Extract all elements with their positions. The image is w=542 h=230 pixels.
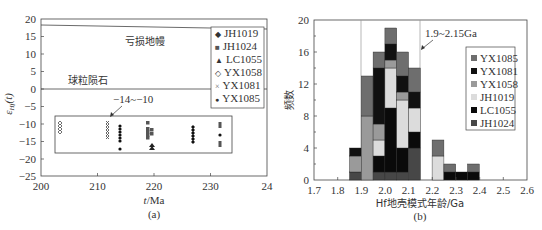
x-tick: 210 xyxy=(89,180,106,192)
legend-swatch xyxy=(471,94,477,100)
depleted-mantle-label: 亏损地幔 xyxy=(125,35,165,47)
range-annotation: −14~−10 xyxy=(113,93,154,105)
range-annotation-b: 1.9~2.15Ga xyxy=(425,27,477,39)
panel-a-x-ticks: 200 210 220 230 24 xyxy=(33,180,273,192)
y-tick: 4 xyxy=(304,142,310,154)
bar-2.05 xyxy=(397,52,409,180)
legend-item-yx1081: YX1081 xyxy=(480,65,518,77)
panel-a-y-ticks: 20 15 10 5 0 −5 −10 −15 −20 −25 xyxy=(19,13,37,182)
y-tick: 15 xyxy=(25,30,37,42)
x-tick: 1.7 xyxy=(307,184,321,196)
y-tick: −10 xyxy=(19,118,37,130)
y-tick: 20 xyxy=(298,14,310,26)
panel-a-chart: 20 15 10 5 0 −5 −10 −15 −20 −25 εHf(t) xyxy=(2,13,273,221)
series-yx1085 xyxy=(118,124,221,150)
series-yx1081 xyxy=(106,121,109,139)
bar-2.30 xyxy=(456,172,468,180)
legend-item-yx1085: YX1085 xyxy=(480,52,518,64)
legend-item-jh1019: JH1019 xyxy=(480,91,515,103)
x-tick: 220 xyxy=(146,180,163,192)
panel-b-y-label: 频数 xyxy=(283,90,295,110)
series-jh1024 xyxy=(146,121,222,147)
x-tick: 2.6 xyxy=(520,184,534,196)
legend-item-lc1055: LC1055 xyxy=(480,104,517,116)
x-tick: 2.4 xyxy=(473,184,487,196)
y-tick: −15 xyxy=(19,135,37,147)
y-tick: −20 xyxy=(19,153,37,165)
bar-2.20 xyxy=(432,140,444,180)
legend-swatch xyxy=(471,81,477,87)
panel-a-x-label: t/Ma xyxy=(144,194,165,206)
bar-1.90 xyxy=(361,76,373,180)
x-tick: 2.1 xyxy=(402,184,416,196)
x-tick: 1.9 xyxy=(354,184,368,196)
annotation-arrow-b xyxy=(423,40,433,48)
scatter-points xyxy=(58,121,222,151)
panel-b-y-ticks: 0 4 8 12 16 20 xyxy=(298,14,310,186)
legend-item-yx1081: ×YX1081 xyxy=(215,79,260,91)
legend-item-yx1058: YX1058 xyxy=(480,78,518,90)
bar-2.10 xyxy=(409,68,421,180)
legend-swatch xyxy=(471,107,477,113)
chondrite-label: 球粒陨石 xyxy=(68,74,108,86)
panel-b-legend: YX1085 YX1081 YX1058 JH1019 LC1055 JH102… xyxy=(466,47,518,130)
x-tick: 24 xyxy=(262,180,274,192)
bar-2.35 xyxy=(468,164,480,180)
arrow-head-icon xyxy=(421,45,425,50)
x-tick: 230 xyxy=(202,180,219,192)
bar-1.95 xyxy=(373,52,385,180)
y-tick: 10 xyxy=(25,48,37,60)
x-tick: 2.2 xyxy=(425,184,439,196)
y-tick: 12 xyxy=(298,78,309,90)
bar-1.85 xyxy=(350,148,362,180)
panel-b-x-ticks: 1.7 1.8 1.9 2.0 2.1 2.2 2.3 2.4 2.5 2.6 xyxy=(307,184,534,196)
panel-a-caption: (a) xyxy=(148,208,161,221)
x-tick: 200 xyxy=(33,180,50,192)
histogram-bars xyxy=(350,28,480,180)
panel-a-legend: ◆JH1019 ■JH1024 ▲LC1055 ◇YX1058 ×YX1081 … xyxy=(211,27,264,108)
legend-item-jh1024: JH1024 xyxy=(480,117,515,129)
series-lc1055 xyxy=(149,143,155,150)
y-tick: 0 xyxy=(31,83,37,95)
y-tick: 8 xyxy=(304,110,310,122)
annotation-arrow xyxy=(112,106,122,115)
y-tick: 20 xyxy=(25,13,37,25)
x-tick: 1.8 xyxy=(331,184,345,196)
panel-b-x-label: Hf地壳模式年龄/Ga xyxy=(376,197,464,209)
svg-text:频数: 频数 xyxy=(283,90,295,110)
legend-item-yx1085: ●YX1085 xyxy=(215,92,261,104)
x-tick: 2.0 xyxy=(378,184,392,196)
panel-b-caption: (b) xyxy=(414,210,427,223)
panel-a-y-tick-marks xyxy=(41,37,211,177)
y-tick: 5 xyxy=(31,65,37,77)
svg-text:εHf(t): εHf(t) xyxy=(2,93,16,115)
bar-2.25 xyxy=(444,164,456,180)
x-tick: 2.3 xyxy=(449,184,463,196)
y-tick: −5 xyxy=(24,100,36,112)
figure: 20 15 10 5 0 −5 −10 −15 −20 −25 εHf(t) xyxy=(0,0,542,230)
x-tick: 2.5 xyxy=(496,184,510,196)
bar-2.00 xyxy=(385,28,397,180)
series-jh1019 xyxy=(191,125,195,144)
data-range-box xyxy=(55,116,232,153)
y-tick: 16 xyxy=(298,46,310,58)
panel-b-chart: 0 4 8 12 16 20 1.7 1.8 1.9 2.0 2.1 2.2 2… xyxy=(283,14,534,223)
legend-swatch xyxy=(471,120,477,126)
series-yx1058 xyxy=(58,121,62,134)
legend-swatch xyxy=(471,68,477,74)
panel-a-y-label: εHf(t) xyxy=(2,93,16,115)
legend-swatch xyxy=(471,55,477,61)
